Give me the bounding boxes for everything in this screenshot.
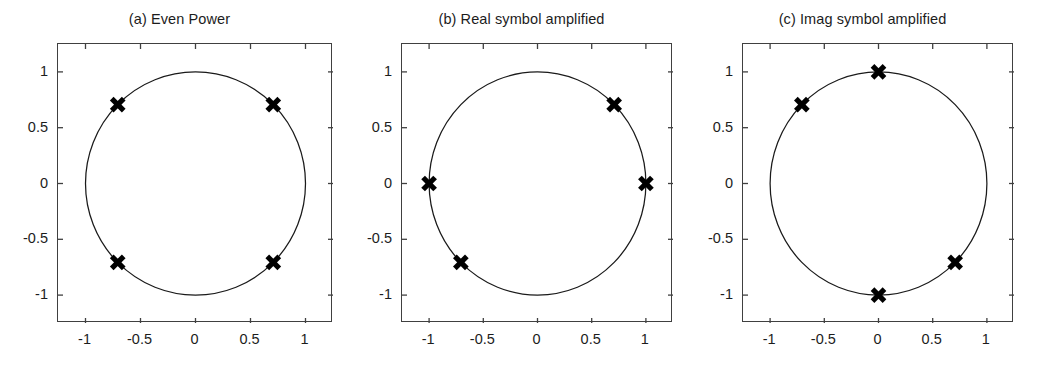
panel-a-ytick-label: -0.5 [23,230,48,246]
panel-b-xtick-label: 0.5 [581,331,601,347]
panel-c-tick-marks [743,44,1014,323]
panel-c-ytick-label: 1 [725,63,733,79]
constellation-marker [608,99,620,111]
panel-a: (a) Even Power-1-0.500.51-1-0.500.51 [7,0,352,365]
panel-b-ytick-label: 1 [384,63,392,79]
panel-c-xtick-label: 1 [982,331,990,347]
panel-c: (c) Imag symbol amplified-1-0.500.51-1-0… [692,0,1033,365]
panel-c-plot-area [742,43,1013,322]
panel-b-ytick-label: -1 [379,286,392,302]
panel-a-plot-area [57,43,332,322]
constellation-marker [267,256,279,268]
constellation-marker [455,256,467,268]
panel-b: (b) Real symbol amplified-1-0.500.51-1-0… [351,0,692,365]
panel-b-plot-area [401,43,672,322]
panel-a-markers [112,99,280,269]
panel-b-ytick-label: -0.5 [367,230,392,246]
constellation-marker [267,99,279,111]
constellation-marker [112,256,124,268]
constellation-marker [949,256,961,268]
panel-a-xtick-label: 0 [190,331,198,347]
panel-c-ytick-label: -1 [720,286,733,302]
panel-b-ytick-label: 0 [384,175,392,191]
panel-a-ytick-label: 0.5 [28,119,48,135]
panel-c-svg [743,44,1014,323]
panel-a-ytick-label: 1 [40,63,48,79]
panel-c-xtick-label: -1 [763,331,776,347]
panel-b-title: (b) Real symbol amplified [351,11,692,27]
panel-b-svg [402,44,673,323]
panel-b-markers [423,99,652,269]
panel-a-xtick-label: 1 [300,331,308,347]
panel-b-xtick-label: 0 [532,331,540,347]
panel-b-tick-marks [402,44,673,323]
panel-c-ytick-label: 0 [725,175,733,191]
panel-b-ytick-label: 0.5 [372,119,392,135]
figure-canvas: (a) Even Power-1-0.500.51-1-0.500.51(b) … [0,0,1039,365]
panel-a-xtick-label: -0.5 [127,331,152,347]
panel-c-markers [796,66,961,301]
panel-c-xtick-label: 0 [873,331,881,347]
panel-b-xtick-label: -1 [422,331,435,347]
panel-c-xtick-label: 0.5 [922,331,942,347]
panel-c-xtick-label: -0.5 [811,331,836,347]
panel-c-ytick-label: -0.5 [708,230,733,246]
panel-a-svg [58,44,333,323]
panel-a-ytick-label: -1 [35,286,48,302]
panel-a-xtick-label: 0.5 [239,331,259,347]
constellation-marker [796,99,808,111]
panel-b-xtick-label: -0.5 [470,331,495,347]
panel-a-xtick-label: -1 [78,331,91,347]
panel-a-title: (a) Even Power [7,11,352,27]
panel-a-ytick-label: 0 [40,175,48,191]
constellation-marker [112,99,124,111]
panel-a-tick-marks [58,44,333,323]
panel-c-title: (c) Imag symbol amplified [692,11,1033,27]
panel-c-ytick-label: 0.5 [713,119,733,135]
panel-b-xtick-label: 1 [641,331,649,347]
